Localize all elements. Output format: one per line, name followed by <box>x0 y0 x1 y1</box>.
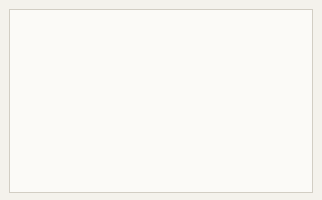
plot-area <box>38 37 314 192</box>
page-root <box>0 0 322 200</box>
chart-canvas <box>38 37 314 192</box>
chart-panel <box>9 9 313 193</box>
